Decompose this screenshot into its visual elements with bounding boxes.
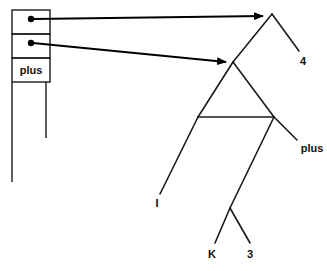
upper-left-edge: [233, 14, 272, 62]
upper-right-edge: [272, 14, 299, 51]
leaf-label-plus: plus: [301, 142, 324, 154]
diagonal-to-k3-edge: [230, 117, 274, 208]
three-edge: [230, 208, 250, 243]
diagram-canvas: plus 4 I: [0, 0, 327, 271]
cell-label-plus: plus: [20, 64, 43, 76]
pointer-tree-diagram: plus 4 I: [0, 0, 327, 271]
lower-tree: I plus K 3: [155, 62, 323, 260]
pointer-arrows: [33, 16, 263, 62]
pointer-to-lower-tree: [33, 43, 226, 62]
k-edge: [215, 208, 230, 243]
leaf-label-4: 4: [300, 55, 307, 67]
cons-cell-box: plus: [12, 10, 50, 82]
lower-left-edge: [198, 62, 233, 117]
leaf-label-k: K: [208, 248, 216, 260]
box-stems: [12, 82, 46, 182]
leaf-label-3: 3: [247, 248, 253, 260]
plus-edge: [274, 117, 297, 140]
leaf-label-i: I: [155, 197, 158, 209]
lower-right-edge: [233, 62, 274, 117]
upper-tree: 4: [233, 14, 307, 67]
pointer-to-upper-tree: [33, 16, 263, 19]
leaf-i-edge: [160, 117, 198, 194]
